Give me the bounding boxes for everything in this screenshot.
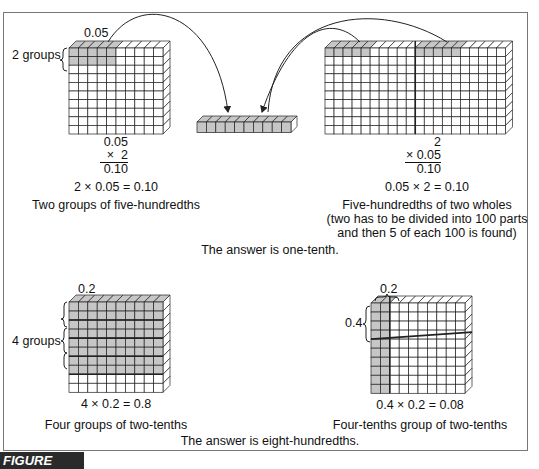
frac-result: 0.10 [405, 162, 441, 176]
grid-area-model [371, 296, 472, 393]
frac-result: 0.10 [100, 162, 128, 176]
tenth-strip [197, 116, 297, 133]
brace-0-4 [363, 306, 370, 342]
brace-2-groups [60, 48, 67, 71]
label-0-4: 0.4 [345, 316, 362, 330]
caption-top-right-3: and then 5 of each 100 is found) [337, 226, 516, 240]
equation-bottom-right: 0.4 × 0.2 = 0.08 [376, 398, 464, 412]
grid-four-groups [69, 295, 170, 392]
frac-line2: × 2 [100, 149, 128, 162]
label-4-groups: 4 groups [12, 334, 61, 348]
caption-top-left: Two groups of five-hundredths [32, 198, 200, 212]
equation-top-right: 0.05 × 2 = 0.10 [385, 180, 469, 194]
answer-eight-hundredths: The answer is eight-hundredths. [181, 434, 360, 448]
fraction-top-left: 0.05 × 2 0.10 [100, 136, 128, 176]
fraction-top-right: 2 × 0.05 0.10 [405, 136, 441, 176]
label-0-05: 0.05 [84, 26, 108, 40]
label-0-2-left: 0.2 [78, 282, 95, 296]
label-2-groups: 2 groups [12, 48, 61, 62]
caption-bottom-right: Four-tenths group of two-tenths [333, 418, 507, 432]
caption-top-right-1: Five-hundredths of two wholes [342, 198, 512, 212]
brace-4-groups [61, 302, 67, 369]
equation-bottom-left: 4 × 0.2 = 0.8 [81, 397, 151, 411]
figure-label: FIGURE 10.23 [0, 452, 84, 469]
label-0-2-right: 0.2 [380, 282, 397, 296]
equation-top-left: 2 × 0.05 = 0.10 [74, 180, 158, 194]
frac-line2: × 0.05 [405, 149, 441, 162]
caption-bottom-left: Four groups of two-tenths [45, 418, 187, 432]
grid-hundred-two-groups [69, 41, 170, 134]
grid-two-hundreds [325, 41, 512, 134]
caption-top-right-2: (two has to be divided into 100 parts [327, 212, 528, 226]
answer-one-tenth: The answer is one-tenth. [201, 243, 339, 257]
